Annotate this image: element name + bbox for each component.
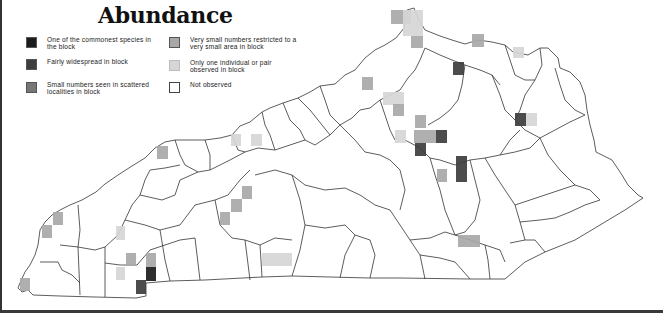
abundance-block-restricted	[42, 225, 52, 238]
abundance-block-widespread	[415, 143, 426, 156]
abundance-block-single	[262, 253, 292, 266]
abundance-block-restricted	[231, 199, 242, 212]
abundance-block-restricted	[157, 146, 168, 159]
abundance-block-single	[251, 134, 262, 146]
abundance-block-widespread	[515, 113, 526, 126]
abundance-block-widespread	[453, 62, 464, 75]
abundance-block-widespread	[136, 280, 146, 294]
abundance-block-restricted	[242, 186, 252, 199]
abundance-block-restricted	[53, 212, 63, 225]
abundance-block-restricted	[393, 104, 404, 116]
abundance-block-restricted	[411, 36, 423, 48]
kentucky-county-map	[0, 0, 663, 313]
abundance-block-single	[231, 134, 241, 146]
abundance-block-restricted	[415, 115, 426, 128]
abundance-block-restricted	[472, 34, 484, 47]
abundance-block-single	[395, 130, 406, 143]
abundance-block-restricted	[414, 130, 436, 143]
abundance-block-restricted	[146, 253, 156, 267]
abundance-block-restricted	[437, 169, 447, 182]
abundance-block-widespread	[456, 156, 467, 182]
abundance-block-commonest	[146, 267, 156, 281]
abundance-block-single	[513, 47, 524, 58]
abundance-block-restricted	[220, 212, 230, 225]
abundance-block-restricted	[458, 235, 480, 247]
abundance-block-single	[116, 267, 125, 280]
abundance-block-restricted	[20, 278, 30, 291]
abundance-block-single	[526, 113, 537, 126]
abundance-block-single	[116, 226, 125, 240]
abundance-block-restricted	[126, 253, 136, 266]
state-outline	[18, 8, 643, 298]
abundance-block-restricted	[362, 77, 373, 90]
abundance-block-single	[403, 10, 423, 36]
abundance-block-widespread	[436, 130, 447, 143]
